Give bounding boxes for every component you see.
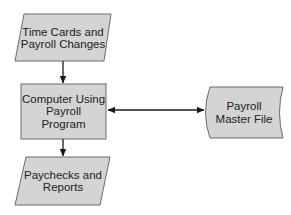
output-label: Paychecks and Reports xyxy=(20,158,106,204)
input-label: Time Cards and Payroll Changes xyxy=(18,16,108,60)
storage-label: Payroll Master File xyxy=(208,87,280,138)
process-label: Computer Using Payroll Program xyxy=(21,84,106,139)
